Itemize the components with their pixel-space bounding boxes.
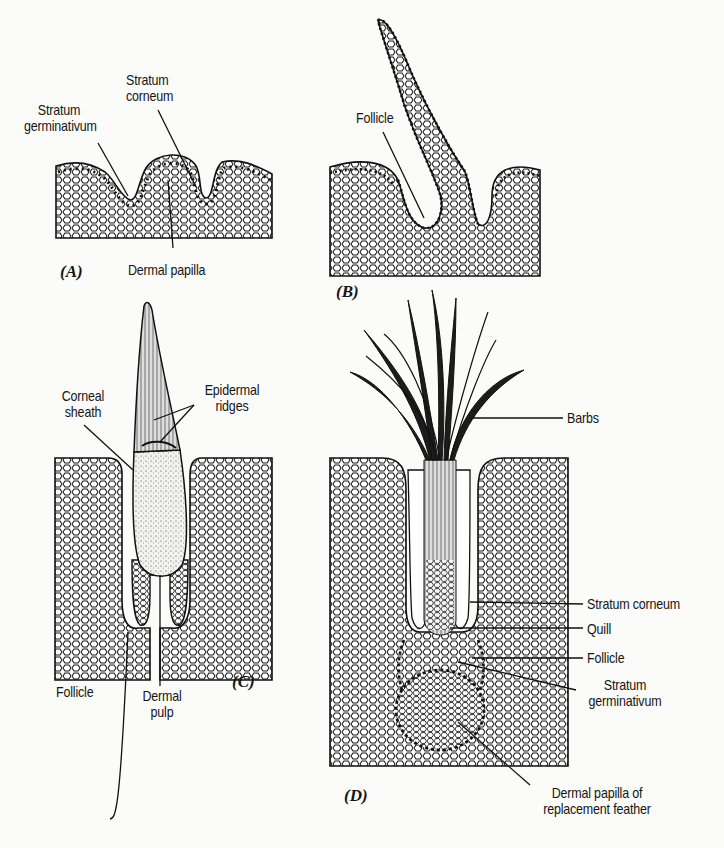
label-line: Epidermal [201,382,263,398]
label-a-dermal-papilla: Dermal papilla [128,262,205,278]
label-line: germinativum [586,693,663,709]
label-d-barbs: Barbs [567,410,599,426]
panel-c-drawing [55,303,272,680]
label-c-epidermal-ridges: Epidermal ridges [201,382,263,414]
panel-label-a: (A) [60,262,83,282]
label-line: Dermal papilla of [541,785,653,801]
label-d-dermal-papilla-replacement: Dermal papilla of replacement feather [541,785,653,817]
label-a-stratum-corneum: Stratum corneum [126,72,173,104]
label-c-follicle: Follicle [56,684,93,700]
label-b-follicle: Follicle [356,110,393,126]
label-d-stratum-germinativum: Stratum germinativum [586,677,663,709]
label-line: Corneal [58,388,108,404]
label-line: pulp [140,704,185,720]
panel-label-d: (D) [344,786,368,806]
label-a-stratum-germinativum: Stratum germinativum [24,102,97,134]
label-line: corneum [126,88,173,104]
label-d-quill: Quill [587,621,611,637]
panel-a-drawing [56,155,272,238]
feather-development-illustration [0,0,724,848]
label-d-follicle: Follicle [587,650,624,666]
label-c-corneal-sheath: Corneal sheath [58,388,108,420]
label-line: Stratum [586,677,663,693]
panel-b-drawing [330,20,540,276]
label-line: Stratum [24,102,97,118]
label-line: Stratum [126,72,173,88]
panel-label-c: (C) [232,672,255,692]
panel-d-drawing [330,290,568,766]
label-line: ridges [201,398,263,414]
label-line: Dermal [140,688,185,704]
label-line: sheath [58,404,108,420]
label-line: germinativum [24,118,97,134]
label-line: replacement feather [541,801,653,817]
label-d-stratum-corneum: Stratum corneum [587,596,680,612]
panel-label-b: (B) [336,282,359,302]
label-c-dermal-pulp: Dermal pulp [140,688,185,720]
